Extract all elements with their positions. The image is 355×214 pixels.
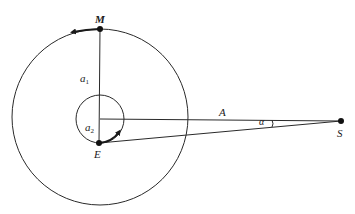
point-E-dot [96,140,102,146]
diagram-canvas [0,0,355,214]
point-M-dot [97,26,103,32]
label-E: E [94,149,101,160]
segment-A [100,119,341,121]
label-A: A [219,107,226,118]
label-a1: a1 [80,73,89,86]
angle-alpha-arc [272,120,273,127]
label-S: S [337,128,343,139]
diagram-stage: M E S A α a1 a2 [0,0,355,214]
label-a1-sub: 1 [86,78,90,86]
point-S-dot [338,118,344,124]
segment-ES [99,121,341,143]
moon-motion-arrow [73,29,100,32]
label-a2: a2 [85,122,94,135]
label-a2-sub: 2 [91,127,95,135]
segment-a1-a2 [99,29,100,143]
label-alpha: α [259,117,264,127]
label-M: M [95,14,105,25]
